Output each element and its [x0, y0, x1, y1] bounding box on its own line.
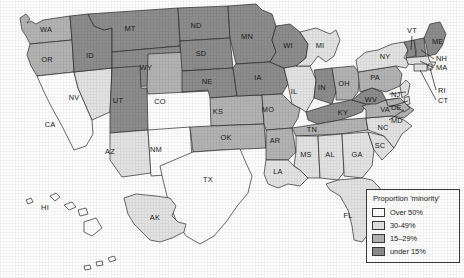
legend-swatch-over-50 [372, 208, 385, 217]
state-label-CA: CA [45, 120, 56, 129]
state-label-ID: ID [86, 51, 94, 60]
state-label-LA: LA [273, 167, 282, 176]
state-label-MI: MI [316, 41, 325, 50]
legend-label-over-50: Over 50% [390, 208, 423, 217]
state-label-WA: WA [40, 25, 52, 34]
state-SD[interactable] [180, 38, 233, 71]
legend-swatch-15-29 [372, 234, 385, 243]
state-label-MN: MN [241, 32, 253, 41]
state-label-SD: SD [196, 49, 207, 58]
state-label-GA: GA [351, 150, 362, 159]
state-label-IN: IN [318, 83, 326, 92]
state-label-NV: NV [69, 93, 80, 102]
legend-swatch-under-15 [372, 247, 385, 256]
state-label-WV: WV [365, 95, 377, 104]
state-label-AL: AL [325, 150, 334, 159]
state-label-NM: NM [150, 145, 162, 154]
leader-line-CT [420, 70, 436, 100]
state-label-MA: MA [436, 63, 448, 72]
state-label-KY: KY [338, 108, 348, 117]
state-label-TN: TN [307, 125, 317, 134]
legend-item-under-15[interactable]: under 15% [372, 245, 454, 258]
state-label-MS: MS [300, 150, 312, 159]
state-label-TX: TX [203, 175, 213, 184]
state-label-OK: OK [220, 133, 231, 142]
legend-label-under-15: under 15% [390, 247, 426, 256]
state-label-OH: OH [338, 79, 350, 88]
state-label-AK: AK [150, 213, 160, 222]
state-CT[interactable] [414, 64, 427, 71]
legend-label-15-29: 15–29% [390, 234, 417, 243]
state-NJ[interactable] [400, 80, 410, 98]
state-AZ[interactable] [110, 130, 151, 177]
state-label-NY: NY [380, 52, 391, 61]
state-label-SC: SC [375, 141, 386, 150]
state-label-VA: VA [380, 105, 390, 114]
state-label-MT: MT [124, 24, 135, 33]
state-label-DE: DE [391, 103, 402, 112]
state-label-CO: CO [154, 97, 166, 106]
state-label-WI: WI [283, 41, 292, 50]
state-NH[interactable] [414, 38, 426, 58]
map-legend: Proportion 'minority' Over 50% 30-49% 15… [366, 189, 460, 263]
state-label-NJ: NJ [391, 90, 401, 99]
legend-label-30-49: 30-49% [390, 221, 415, 230]
state-label-CT: CT [438, 96, 449, 105]
state-label-AR: AR [270, 136, 281, 145]
state-ND[interactable] [178, 6, 230, 41]
state-label-AZ: AZ [105, 147, 115, 156]
state-label-NE: NE [202, 77, 213, 86]
state-label-KS: KS [213, 107, 223, 116]
state-label-UT: UT [113, 96, 124, 105]
state-label-HI: HI [41, 203, 49, 212]
state-label-FL: FL [343, 211, 352, 220]
state-label-MD: MD [391, 116, 403, 125]
legend-title: Proportion 'minority' [373, 194, 454, 203]
state-label-PA: PA [370, 73, 380, 82]
state-label-IA: IA [254, 73, 261, 82]
state-label-NH: NH [436, 54, 447, 63]
state-label-OR: OR [41, 55, 53, 64]
state-HI[interactable] [26, 193, 102, 236]
state-label-NC: NC [377, 123, 389, 132]
state-label-MO: MO [262, 105, 274, 114]
state-label-ME: ME [432, 37, 444, 46]
legend-item-over-50[interactable]: Over 50% [372, 206, 454, 219]
state-label-VT: VT [407, 26, 417, 35]
legend-swatch-30-49 [372, 221, 385, 230]
state-label-RI: RI [438, 86, 446, 95]
state-AK-aleutians [84, 256, 116, 270]
legend-item-30-49[interactable]: 30-49% [372, 219, 454, 232]
state-label-WY: WY [140, 63, 152, 72]
state-label-ND: ND [190, 21, 201, 30]
legend-item-15-29[interactable]: 15–29% [372, 232, 454, 245]
state-label-IL: IL [291, 87, 298, 96]
